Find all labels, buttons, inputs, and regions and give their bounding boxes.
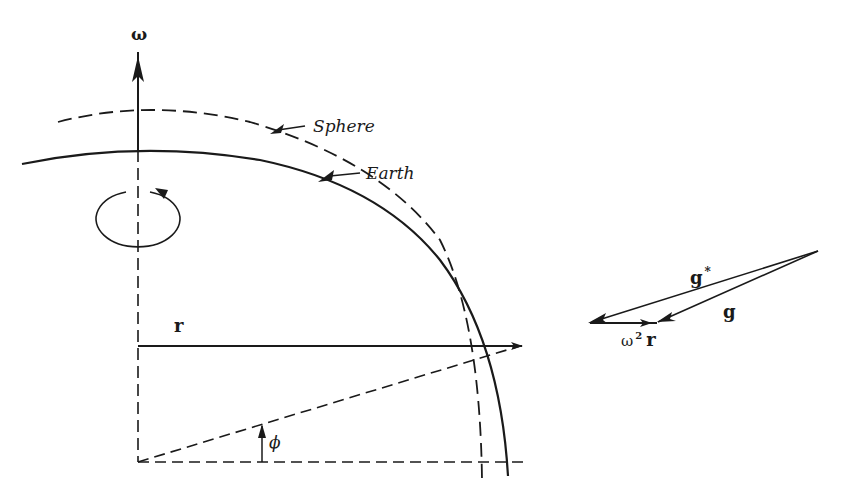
gravity-vector-triangle (588, 251, 818, 327)
g-label: g (723, 301, 736, 322)
omega-squared-r-label: ω2r (621, 329, 656, 350)
vector-arrowhead-icon (657, 312, 676, 322)
g-vector (658, 251, 818, 322)
sphere-outline (58, 110, 482, 480)
sphere-pointer (270, 124, 305, 134)
diagram-canvas: ω Sphere Earth r ϕ g* g ω2r (0, 0, 848, 494)
radial-line (138, 346, 520, 462)
phi-label: ϕ (269, 432, 281, 452)
earth-outline (22, 151, 508, 476)
r-label: r (174, 315, 184, 336)
omega-label: ω (131, 24, 147, 44)
sphere-label: Sphere (313, 116, 375, 136)
earth-label: Earth (365, 163, 414, 183)
g-star-vector (592, 251, 818, 322)
rotation-axis (132, 52, 144, 462)
phi-angle-arrow (258, 424, 266, 462)
earth-pointer (318, 170, 360, 182)
g-star-label: g* (690, 265, 712, 288)
angle-arrowhead-icon (258, 424, 266, 438)
